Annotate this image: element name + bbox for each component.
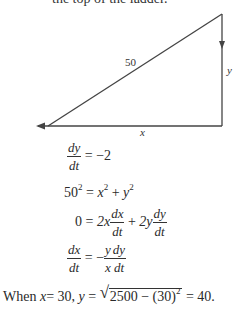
- equation-derivative: 0 = 2xdxdt + 2ydydt: [75, 207, 167, 238]
- denominator: dt: [67, 259, 81, 274]
- exponent: 2: [104, 182, 109, 192]
- radical-sign-icon: √: [100, 284, 109, 301]
- numerator: y: [104, 243, 112, 259]
- numerator: dy: [153, 207, 167, 223]
- equation-pythagorean: 502 = x2 + y2: [64, 186, 134, 200]
- lhs: 50: [64, 185, 78, 200]
- exponent: 2: [176, 286, 181, 296]
- x-value: = 30,: [46, 289, 75, 304]
- numerator: dy: [67, 141, 81, 157]
- square-root: √2500 − (30)2: [100, 288, 183, 304]
- fraction-dx-dt: dx dt: [67, 243, 81, 274]
- equation-dy-dt: dy dt = −2: [67, 141, 111, 172]
- conclusion-line: When x= 30, y = √2500 − (30)2 = 40.: [3, 288, 215, 304]
- exponent: 2: [129, 182, 134, 192]
- equals: =: [88, 289, 96, 304]
- equals: =: [86, 185, 94, 200]
- when-text: When: [3, 289, 36, 304]
- denominator: x: [104, 259, 112, 274]
- coef-2x: 2x: [97, 214, 110, 229]
- horizontal-side-label: x: [140, 126, 145, 138]
- arrow-down-icon: [219, 41, 225, 49]
- denominator: dt: [67, 157, 81, 172]
- fraction-dy-dt: dydt: [112, 243, 126, 274]
- vertical-side-label: y: [227, 64, 232, 76]
- equation-dx-dt: dx dt = −yxdydt: [67, 243, 126, 274]
- equation-rhs: = −2: [85, 148, 111, 163]
- lhs: 0: [75, 214, 82, 229]
- numerator: dx: [67, 243, 81, 259]
- radicand: 2500 − (30): [110, 289, 176, 304]
- coef-2y: 2y: [139, 214, 152, 229]
- ladder-triangle-diagram: [0, 0, 238, 140]
- var-y: y: [79, 289, 85, 304]
- denominator: dt: [153, 223, 167, 238]
- fraction-dx-dt: dxdt: [110, 207, 124, 238]
- denominator: dt: [112, 259, 126, 274]
- plus: +: [128, 214, 136, 229]
- equals: =: [86, 214, 94, 229]
- plus: +: [112, 185, 120, 200]
- exponent: 2: [78, 182, 83, 192]
- arrow-left-icon: [36, 123, 45, 130]
- denominator: dt: [110, 223, 124, 238]
- fraction-y-x: yx: [104, 243, 112, 274]
- hypotenuse-line: [48, 14, 222, 126]
- equals-minus: = −: [85, 250, 104, 265]
- fraction-dy-dt: dy dt: [67, 141, 81, 172]
- numerator: dx: [110, 207, 124, 223]
- hypotenuse-label: 50: [125, 56, 136, 68]
- result: = 40.: [186, 289, 215, 304]
- numerator: dy: [112, 243, 126, 259]
- fraction-dy-dt: dydt: [153, 207, 167, 238]
